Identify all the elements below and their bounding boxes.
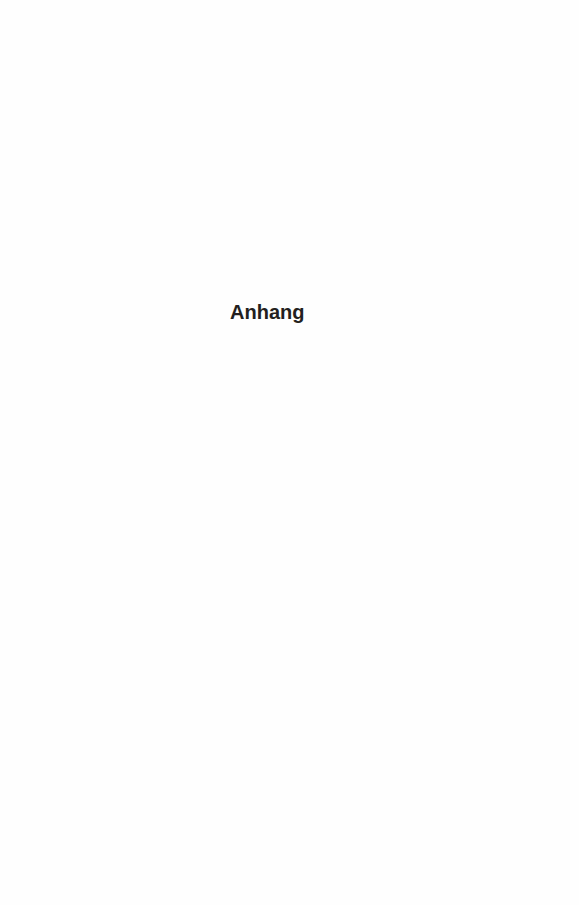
document-page: Anhang [0, 0, 579, 905]
section-heading: Anhang [230, 300, 304, 324]
